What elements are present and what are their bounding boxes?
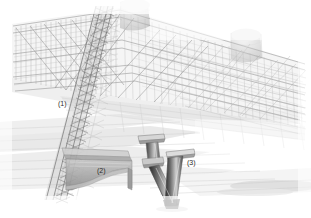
haze-overlay	[0, 0, 311, 218]
callout-label-3: (3)	[187, 159, 196, 167]
callout-label-1: (1)	[58, 100, 67, 108]
technical-photo-figure: (1) (2) (3)	[0, 0, 311, 218]
callout-label-2: (2)	[97, 167, 106, 175]
